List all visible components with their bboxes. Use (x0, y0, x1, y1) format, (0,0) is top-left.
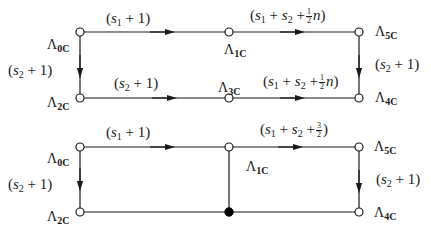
node-top-0c (76, 28, 84, 36)
node-label-top-5c: Λ5C (375, 25, 397, 41)
node-bot-0c (76, 143, 84, 151)
edge-label-top-3c-4c: (s1 + s2 +12n) (263, 74, 338, 91)
edge-label-bot-0c-2c: (s2 + 1) (8, 177, 52, 194)
node-top-5c (355, 28, 363, 36)
edge-label-top-0c-1c: (s1 + 1) (106, 11, 150, 28)
bottom-diagram (80, 147, 359, 212)
node-bot-5c (355, 143, 363, 151)
node-label-top-3c: Λ3C (218, 81, 240, 97)
node-label-bot-4c: Λ4C (374, 206, 396, 222)
edge-label-top-1c-5c: (s1 + s2 +12n) (250, 8, 325, 25)
node-label-top-0c: Λ0C (47, 38, 69, 54)
node-label-bot-2c: Λ2C (47, 210, 69, 226)
node-bot-4c (355, 208, 363, 216)
node-label-top-4c: Λ4C (375, 91, 397, 107)
edge-label-top-2c-3c: (s2 + 1) (114, 76, 158, 93)
edge-label-bot-1c-5c: (s1 + s2 +32) (260, 122, 328, 139)
node-label-bot-5c: Λ5C (374, 140, 396, 156)
edge-label-top-0c-2c: (s2 + 1) (8, 63, 52, 80)
node-label-bot-0c: Λ0C (47, 152, 69, 168)
node-label-bot-1c: Λ1C (246, 160, 268, 176)
node-bot-junction (225, 208, 233, 216)
edge-label-top-5c-4c: (s2 + 1) (375, 57, 419, 74)
diagram-canvas (0, 0, 431, 228)
node-top-4c (355, 94, 363, 102)
node-bot-1c (225, 143, 233, 151)
node-label-top-2c: Λ2C (47, 96, 69, 112)
node-bot-2c (76, 208, 84, 216)
node-label-top-1c: Λ1C (224, 43, 246, 59)
node-top-2c (76, 94, 84, 102)
edge-label-bot-5c-4c: (s2 + 1) (376, 172, 420, 189)
edge-label-bot-0c-1c: (s1 + 1) (106, 125, 150, 142)
node-top-1c (225, 28, 233, 36)
